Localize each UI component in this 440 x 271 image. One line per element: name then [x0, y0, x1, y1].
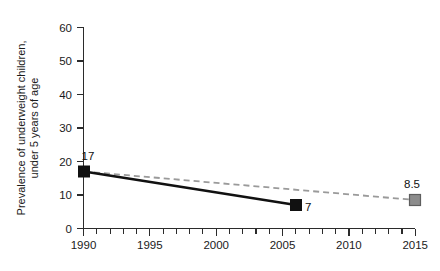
- y-tick-label-10: 10: [59, 189, 72, 201]
- x-tick-label-2015: 2015: [402, 239, 428, 251]
- data-point-label-8-5: 8.5: [404, 178, 420, 190]
- y-tick-label-0: 0: [66, 223, 72, 235]
- y-axis-title-line1: Prevalence of underweight children,: [15, 41, 27, 216]
- y-tick-label-30: 30: [59, 122, 72, 134]
- data-point-label-7: 7: [305, 201, 311, 213]
- x-tick-label-1995: 1995: [137, 239, 163, 251]
- observed-trend-line: [84, 172, 296, 206]
- series-projected: 8.5: [84, 172, 421, 206]
- y-tick-label-40: 40: [59, 89, 72, 101]
- y-axis-title-group: Prevalence of underweight children, unde…: [15, 41, 40, 216]
- data-point-marker-1990: [79, 166, 90, 177]
- y-axis: 60 50 40 30 20 10 0: [59, 22, 83, 235]
- x-tick-label-1990: 1990: [71, 239, 97, 251]
- y-tick-label-50: 50: [59, 55, 72, 67]
- data-point-label-17: 17: [82, 150, 95, 162]
- x-tick-label-2010: 2010: [336, 239, 362, 251]
- data-point-marker-2007: [291, 200, 302, 211]
- y-tick-label-60: 60: [59, 22, 72, 34]
- x-tick-label-2000: 2000: [203, 239, 229, 251]
- data-point-marker-2015: [410, 195, 421, 206]
- chart-figure: Prevalence of underweight children, unde…: [0, 0, 440, 271]
- line-chart: Prevalence of underweight children, unde…: [0, 0, 440, 271]
- x-axis: 1990 1995 2000 2005 2010 2015: [71, 229, 428, 252]
- y-tick-label-20: 20: [59, 156, 72, 168]
- x-tick-label-2005: 2005: [270, 239, 296, 251]
- y-axis-title-line2: under 5 years of age: [28, 78, 40, 179]
- projected-trend-line: [84, 172, 415, 201]
